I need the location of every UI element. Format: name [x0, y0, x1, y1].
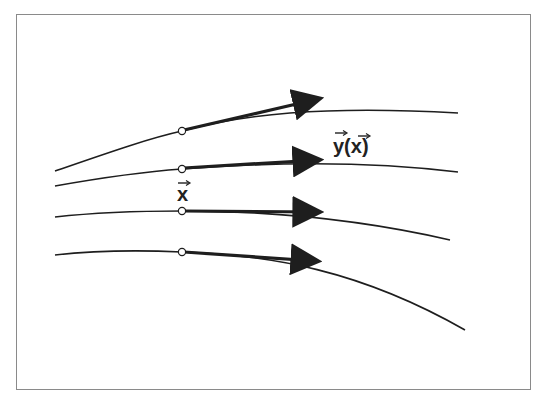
- point-marker-3: [178, 207, 185, 214]
- label-y-of-x: y(x): [333, 131, 370, 158]
- point-marker-2: [178, 165, 185, 172]
- tangent-arrow-1: [184, 99, 318, 130]
- svg-text:y(x): y(x): [333, 135, 369, 157]
- point-marker-1: [178, 127, 185, 134]
- label-x: x: [177, 181, 190, 206]
- flow-curve-1: [55, 110, 458, 171]
- point-marker-4: [178, 248, 185, 255]
- tangent-arrow-3: [184, 211, 318, 212]
- flow-curve-4: [55, 251, 465, 330]
- vector-field-diagram: y(x) x: [0, 0, 548, 403]
- svg-text:x: x: [177, 183, 188, 205]
- flow-curve-2: [55, 164, 458, 186]
- tangent-arrow-4: [184, 252, 316, 261]
- flow-curve-3: [55, 211, 450, 240]
